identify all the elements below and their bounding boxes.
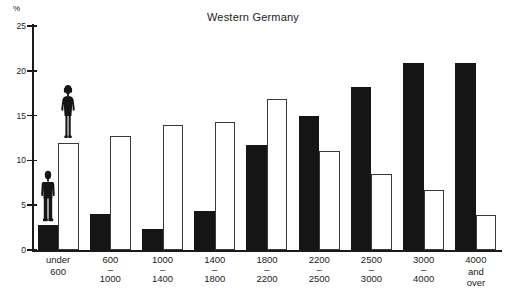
x-axis-label-line3: over: [450, 277, 502, 289]
y-tick-label: 25: [6, 21, 26, 31]
bar-group: [32, 26, 84, 250]
bar-women[interactable]: [58, 143, 79, 250]
y-tick-label: 20: [6, 66, 26, 76]
x-axis-label: 1000–1400: [136, 254, 188, 284]
bar-chart: Western Germany % 0510152025 under600600…: [0, 0, 506, 298]
x-axis-label-dash: –: [84, 266, 136, 273]
bar-men[interactable]: [38, 225, 59, 250]
bar-women[interactable]: [424, 190, 445, 250]
female-figure-pictogram-icon: [60, 84, 76, 144]
bar-group: [345, 26, 397, 250]
bar-men[interactable]: [246, 145, 267, 250]
bar-women[interactable]: [476, 215, 497, 250]
x-axis-label-line1: 4000: [450, 254, 502, 266]
x-axis-label-dash: –: [136, 266, 188, 273]
y-tick-label: 10: [6, 155, 26, 165]
x-axis-label: 1800–2200: [241, 254, 293, 284]
bar-women[interactable]: [215, 122, 236, 250]
bar-group: [84, 26, 136, 250]
bar-men[interactable]: [90, 214, 111, 250]
bar-men[interactable]: [194, 211, 215, 250]
x-axis-label-dash: –: [345, 266, 397, 273]
bar-men[interactable]: [351, 87, 372, 250]
x-axis-label-line2: 2200: [241, 273, 293, 285]
bar-men[interactable]: [142, 229, 163, 250]
x-axis-label: 4000andover: [450, 254, 502, 289]
y-tick-label: 0: [6, 245, 26, 255]
x-axis-label: 600–1000: [84, 254, 136, 284]
x-axis-label-dash: –: [293, 266, 345, 273]
bar-group: [450, 26, 502, 250]
bar-group: [241, 26, 293, 250]
plot-area: [32, 26, 502, 250]
x-axis-label-line2: 3000: [345, 273, 397, 285]
x-axis-label-line2: 1800: [189, 273, 241, 285]
male-figure-pictogram-icon: [40, 170, 55, 226]
x-axis-label: 2500–3000: [345, 254, 397, 284]
x-axis-label-dash: –: [398, 266, 450, 273]
bar-women[interactable]: [319, 151, 340, 250]
bar-group: [398, 26, 450, 250]
x-axis-label: 2200–2500: [293, 254, 345, 284]
y-axis-unit-label: %: [13, 4, 20, 13]
x-axis-label-line2: and: [450, 266, 502, 278]
chart-title: Western Germany: [0, 11, 506, 23]
x-axis-label-line2: 1000: [84, 273, 136, 285]
x-axis-label: 3000–4000: [398, 254, 450, 284]
x-axis-label: 1400–1800: [189, 254, 241, 284]
bar-women[interactable]: [267, 99, 288, 250]
bar-group: [189, 26, 241, 250]
axis-right-end-cap: [501, 250, 503, 252]
y-tick-label: 15: [6, 111, 26, 121]
bar-men[interactable]: [455, 63, 476, 250]
x-axis-label-dash: –: [241, 266, 293, 273]
bar-women[interactable]: [110, 136, 131, 250]
x-axis-baseline: [32, 250, 502, 252]
y-tick-label: 5: [6, 200, 26, 210]
x-axis-label-line2: 1400: [136, 273, 188, 285]
bar-women[interactable]: [371, 174, 392, 250]
bar-women[interactable]: [163, 125, 184, 250]
bar-group: [136, 26, 188, 250]
bar-group: [293, 26, 345, 250]
bar-men[interactable]: [403, 63, 424, 250]
x-axis-label-line2: 600: [32, 266, 84, 278]
x-axis-labels: under600600–10001000–14001400–18001800–2…: [32, 254, 502, 298]
x-axis-label-line1: under: [32, 254, 84, 266]
x-axis-label-dash: –: [189, 266, 241, 273]
x-axis-label-line2: 4000: [398, 273, 450, 285]
bar-men[interactable]: [299, 116, 320, 250]
x-axis-label-line2: 2500: [293, 273, 345, 285]
x-axis-label: under600: [32, 254, 84, 277]
